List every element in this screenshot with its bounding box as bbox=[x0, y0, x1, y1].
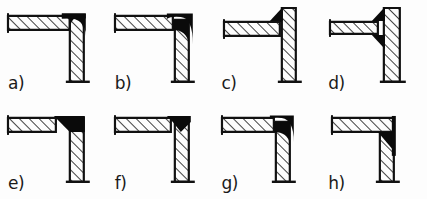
panel-label-e: e) bbox=[8, 175, 24, 192]
joint-drawing-b bbox=[115, 13, 195, 82]
panel-f: f) bbox=[107, 100, 214, 199]
joint-drawing-f bbox=[115, 115, 195, 182]
joint-drawing-d bbox=[330, 7, 406, 82]
joint-drawing-a bbox=[8, 13, 90, 82]
panel-c: c) bbox=[214, 0, 321, 100]
panel-b: b) bbox=[107, 0, 214, 100]
joint-drawing-h bbox=[332, 115, 400, 182]
panel-label-b: b) bbox=[115, 75, 131, 92]
vertical-member-c bbox=[281, 8, 295, 82]
panel-label-h: h) bbox=[328, 175, 344, 192]
panel-grid: a) b) bbox=[0, 0, 427, 199]
panel-e: e) bbox=[0, 100, 107, 199]
horizontal-member-h bbox=[332, 118, 394, 132]
panel-a: a) bbox=[0, 0, 107, 100]
horizontal-member-a bbox=[8, 16, 70, 30]
horizontal-member-e bbox=[8, 118, 56, 132]
panel-h: h) bbox=[320, 100, 427, 199]
panel-d: d) bbox=[320, 0, 427, 100]
panel-label-a: a) bbox=[8, 75, 24, 92]
joint-drawing-g bbox=[221, 115, 295, 182]
panel-label-g: g) bbox=[222, 175, 238, 192]
horizontal-member-g bbox=[221, 118, 273, 132]
horizontal-member-f bbox=[115, 118, 171, 132]
panel-g: g) bbox=[214, 100, 321, 199]
vertical-member-a bbox=[70, 16, 84, 82]
horizontal-member-c bbox=[223, 22, 279, 36]
weld-fillet-c bbox=[269, 7, 282, 21]
panel-label-f: f) bbox=[115, 175, 127, 192]
joint-drawing-e bbox=[8, 115, 90, 182]
panel-label-c: c) bbox=[222, 75, 237, 92]
vertical-member-d bbox=[384, 8, 400, 82]
weld-fillet-d-bottom bbox=[372, 35, 385, 49]
horizontal-member-d bbox=[330, 22, 378, 34]
welded-joints-figure: a) b) bbox=[0, 0, 427, 199]
weld-fillet-e bbox=[54, 116, 85, 132]
horizontal-member-b bbox=[115, 16, 173, 30]
panel-label-d: d) bbox=[328, 75, 344, 92]
weld-fillet-d-top bbox=[372, 7, 385, 21]
joint-drawing-c bbox=[223, 7, 301, 82]
